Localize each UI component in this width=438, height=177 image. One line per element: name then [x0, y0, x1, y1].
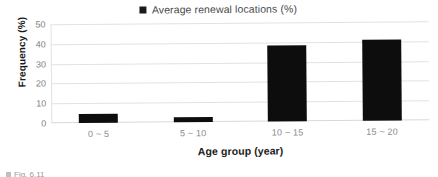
bar-slot-0: 0 ~ 5: [51, 24, 146, 124]
y-tick-label-30: 30: [36, 59, 46, 69]
bar-slot-2: 10 ~ 15: [240, 22, 335, 122]
x-tick-label-3: 15 ~ 20: [366, 127, 398, 137]
bar-0[interactable]: [79, 114, 118, 123]
figure-caption: Fig. 6.11: [6, 170, 45, 177]
y-axis-title: Frequency (%): [16, 7, 28, 97]
caption-marker-icon: [6, 172, 11, 177]
y-tick-label-20: 20: [36, 79, 46, 89]
y-tick-label-0: 0: [41, 118, 46, 128]
legend-label: Average renewal locations (%): [152, 2, 297, 15]
chart-legend: Average renewal locations (%): [0, 1, 437, 16]
y-tick-label-50: 50: [36, 19, 46, 29]
bar-3[interactable]: [362, 39, 402, 120]
plot-area: 0 10 20 30 40 50 0 ~ 5 5 ~ 10 10 ~ 15: [51, 21, 430, 123]
x-tick-label-0: 0 ~ 5: [88, 129, 109, 139]
legend-marker-icon: [140, 6, 147, 13]
y-tick-label-10: 10: [36, 99, 46, 109]
caption-text: Fig. 6.11: [14, 170, 45, 177]
bar-slot-3: 15 ~ 20: [334, 21, 429, 121]
bar-slot-1: 5 ~ 10: [145, 23, 240, 123]
figure-bar-chart: Average renewal locations (%) Frequency …: [0, 0, 438, 177]
x-axis-title: Age group (year): [52, 143, 430, 158]
x-tick-label-2: 10 ~ 15: [272, 127, 304, 137]
bar-2[interactable]: [267, 45, 307, 122]
bar-1[interactable]: [174, 117, 213, 122]
chart-area: Average renewal locations (%) Frequency …: [0, 0, 438, 162]
bar-group: 0 ~ 5 5 ~ 10 10 ~ 15 15 ~ 20: [51, 21, 430, 123]
y-tick-label-40: 40: [36, 39, 46, 49]
x-tick-label-1: 5 ~ 10: [180, 128, 207, 138]
